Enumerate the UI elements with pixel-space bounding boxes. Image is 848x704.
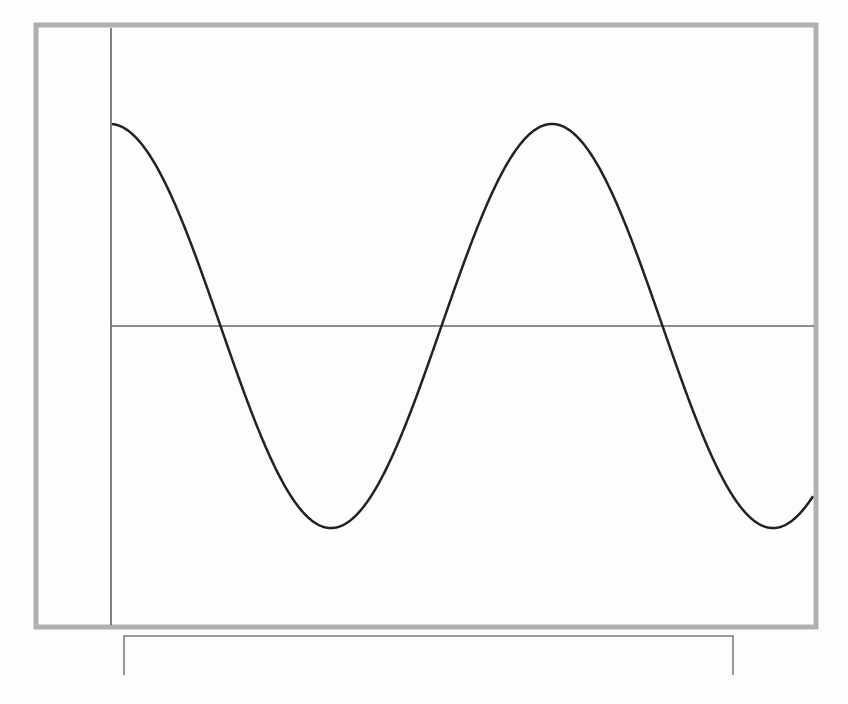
wave-plot: [0, 0, 848, 704]
figure-canvas: [0, 0, 848, 704]
bottom-bracket: [124, 636, 733, 675]
